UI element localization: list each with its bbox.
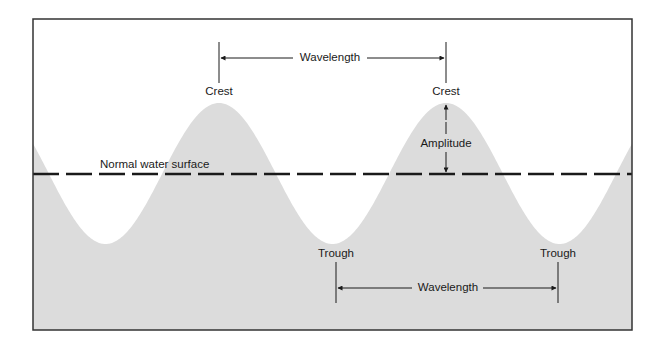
amplitude-label: Amplitude [418, 137, 473, 151]
trough-right-label: Trough [540, 248, 576, 260]
wavelength-top-label: Wavelength [296, 52, 364, 64]
trough-left-label: Trough [318, 248, 354, 260]
crest-right-label: Crest [432, 86, 459, 98]
crest-left-label: Crest [205, 86, 232, 98]
wavelength-bottom-label: Wavelength [414, 282, 482, 294]
normal-water-surface-label: Normal water surface [100, 159, 209, 171]
